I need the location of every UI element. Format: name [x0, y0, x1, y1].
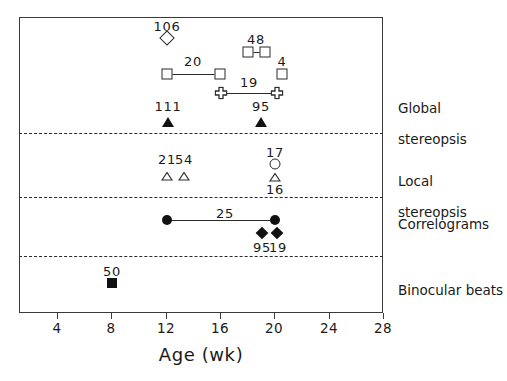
- marker-triangle-filled-95: [255, 117, 267, 127]
- band-label-global-stereopsis: Global stereopsis: [398, 85, 467, 147]
- marker-triangle-open-21: [161, 172, 173, 181]
- value-label-19-diamond: 19: [248, 240, 308, 255]
- x-tick-label-24: 24: [309, 320, 349, 336]
- x-tick-label-20: 20: [254, 320, 294, 336]
- connector-19-cross: [221, 93, 277, 94]
- marker-square-filled-50: [107, 278, 117, 288]
- band-label-local-line1: Local: [398, 173, 433, 189]
- marker-circle-filled-25-left: [162, 215, 172, 225]
- marker-cross-open-19-right: [271, 87, 284, 100]
- band-label-global-line1: Global: [398, 100, 441, 116]
- marker-triangle-filled-111: [162, 117, 174, 127]
- x-tick-4: [57, 313, 58, 319]
- value-label-4: 4: [252, 54, 312, 69]
- marker-circle-open-17: [270, 159, 281, 170]
- connector-25: [167, 220, 275, 221]
- x-tick-16: [220, 313, 221, 319]
- value-label-50: 50: [82, 264, 142, 279]
- band-label-local-stereopsis: Local stereopsis: [398, 158, 467, 220]
- value-label-16: 16: [245, 182, 305, 197]
- x-tick-label-4: 4: [37, 320, 77, 336]
- band-label-binocular-beats: Binocular beats: [398, 283, 503, 299]
- x-tick-label-8: 8: [91, 320, 131, 336]
- x-tick-20: [274, 313, 275, 319]
- x-tick-8: [111, 313, 112, 319]
- x-tick-label-28: 28: [363, 320, 403, 336]
- value-label-48: 48: [226, 32, 286, 47]
- band-label-correlograms: Correlograms: [398, 217, 489, 233]
- band-divider-local-correlograms: [19, 197, 383, 198]
- marker-cross-open-19-left: [215, 87, 228, 100]
- band-label-global-line2: stereopsis: [398, 131, 467, 147]
- x-tick-12: [166, 313, 167, 319]
- marker-triangle-open-16: [269, 173, 281, 182]
- marker-triangle-open-54: [178, 172, 190, 181]
- x-tick-28: [383, 313, 384, 319]
- value-label-20: 20: [163, 54, 223, 69]
- marker-circle-filled-25-right: [270, 215, 280, 225]
- x-axis-title: Age (wk): [0, 344, 402, 365]
- x-tick-24: [329, 313, 330, 319]
- value-label-25: 25: [195, 206, 255, 221]
- x-tick-label-16: 16: [200, 320, 240, 336]
- x-tick-label-12: 12: [146, 320, 186, 336]
- connector-20: [167, 74, 220, 75]
- band-divider-correlograms-beats: [19, 256, 383, 257]
- value-label-54: 54: [154, 152, 214, 167]
- band-divider-global-local: [19, 133, 383, 134]
- value-label-95-triangle: 95: [231, 99, 291, 114]
- value-label-111: 111: [138, 99, 198, 114]
- marker-square-open-20-left: [162, 69, 173, 80]
- chart-figure: 4 8 12 16 20 24 28 Age (wk) Global stere…: [0, 0, 507, 381]
